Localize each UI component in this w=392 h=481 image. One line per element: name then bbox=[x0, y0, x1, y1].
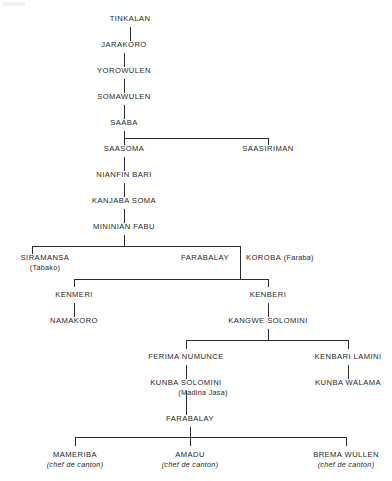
node-saaba[interactable]: SAABA bbox=[110, 118, 138, 128]
connector-kenmeri-riser bbox=[74, 279, 75, 287]
node-koroba[interactable]: KOROBA (Faraba) bbox=[246, 253, 314, 263]
connector-kanjaba-mininian bbox=[124, 209, 125, 223]
connector-amadu-riser bbox=[190, 437, 191, 446]
node-label: SAABA bbox=[110, 118, 138, 127]
node-somawulen[interactable]: SOMAWULEN bbox=[97, 92, 151, 102]
node-label: KANJABA SOMA bbox=[92, 196, 156, 205]
node-label: KANGWE SOLOMINI bbox=[228, 316, 308, 325]
node-label: SAASIRIMAN bbox=[242, 144, 293, 153]
connector-kenmeri-kenberi-bar bbox=[74, 279, 269, 280]
connector-yorowulen-somawulen bbox=[124, 79, 125, 93]
node-label: BREMA WULLEN bbox=[313, 450, 379, 459]
node-label: KENBERI bbox=[250, 290, 287, 299]
node-saasoma[interactable]: SAASOMA bbox=[104, 144, 145, 154]
connector-jarakoro-yorowulen bbox=[124, 53, 125, 67]
node-note: (chef de canton) bbox=[313, 460, 379, 470]
connector-nianfin-kanjaba bbox=[124, 183, 125, 197]
node-kanjaba-soma[interactable]: KANJABA SOMA bbox=[92, 196, 156, 206]
node-nianfin-bari[interactable]: NIANFIN BARI bbox=[96, 170, 152, 180]
node-note: (Tabako) bbox=[21, 263, 70, 273]
connector-kenberi-riser bbox=[268, 279, 269, 287]
node-label: FARABALAY bbox=[181, 253, 229, 262]
node-kunba-solomini[interactable]: KUNBA SOLOMINI (Madina Jasa) bbox=[144, 378, 227, 397]
node-label: NIANFIN BARI bbox=[96, 170, 152, 179]
node-label: KENMERI bbox=[55, 290, 93, 299]
connector-somawulen-saaba bbox=[124, 105, 125, 119]
node-kenmeri[interactable]: KENMERI bbox=[55, 290, 93, 300]
node-kangwe-solomini[interactable]: KANGWE SOLOMINI bbox=[228, 316, 308, 326]
connector-farabalay-koroba-riser bbox=[240, 246, 241, 279]
node-label: NAMAKORO bbox=[50, 316, 98, 325]
connector-saasoma-nianfin bbox=[124, 157, 125, 171]
node-label: MAMERIBA bbox=[53, 450, 97, 459]
node-amadu[interactable]: AMADU (chef de canton) bbox=[162, 450, 219, 469]
node-kenbari-lamini[interactable]: KENBARI LAMINI bbox=[314, 352, 381, 362]
connector-kenbari-riser bbox=[348, 340, 349, 349]
node-label: SAASOMA bbox=[104, 144, 145, 153]
node-label: KENBARI LAMINI bbox=[314, 352, 381, 361]
connector-kenmeri-namakoro bbox=[74, 303, 75, 317]
node-label: TINKALAN bbox=[110, 14, 151, 23]
genealogy-diagram: TINKALAN JARAKORO YOROWULEN SOMAWULEN SA… bbox=[0, 0, 392, 481]
connector-ferima-kenbari-bar bbox=[186, 340, 349, 341]
node-brema-wullen[interactable]: BREMA WULLEN (chef de canton) bbox=[313, 450, 379, 469]
node-label: KUNBA SOLOMINI bbox=[150, 378, 221, 387]
node-note: (Madina Jasa) bbox=[178, 388, 227, 398]
connector-brema-riser bbox=[346, 437, 347, 446]
node-yorowulen[interactable]: YOROWULEN bbox=[97, 66, 151, 76]
node-label: FARABALAY bbox=[166, 414, 214, 423]
connector-ferima-riser bbox=[186, 340, 187, 349]
node-label: MININIAN FABU bbox=[93, 222, 155, 231]
node-kunba-walama[interactable]: KUNBA WALAMA bbox=[315, 378, 381, 388]
node-note: (chef de canton) bbox=[162, 460, 219, 470]
node-namakoro[interactable]: NAMAKORO bbox=[50, 316, 98, 326]
node-mameriba[interactable]: MAMERIBA (chef de canton) bbox=[47, 450, 104, 469]
node-label: SOMAWULEN bbox=[97, 92, 151, 101]
connector-ferima-kunba-solomini bbox=[186, 365, 187, 379]
node-jarakoro[interactable]: JARAKORO bbox=[101, 40, 146, 50]
node-label: SIRAMANSA bbox=[21, 253, 70, 262]
node-label: YOROWULEN bbox=[97, 66, 151, 75]
connector-bottom-sibling-bar bbox=[75, 437, 347, 438]
node-farabalay-lower[interactable]: FARABALAY bbox=[166, 414, 214, 424]
node-note: (Faraba) bbox=[284, 253, 314, 262]
connector-saaba-sibling-bar bbox=[124, 138, 269, 139]
connector-tinkalan-jarakoro bbox=[130, 27, 131, 41]
node-mininian-fabu[interactable]: MININIAN FABU bbox=[93, 222, 155, 232]
node-tinkalan[interactable]: TINKALAN bbox=[110, 14, 151, 24]
node-label: AMADU bbox=[175, 450, 205, 459]
connector-kenbari-kunba-walama bbox=[348, 365, 349, 379]
connector-mininian-sibling-bar bbox=[32, 246, 241, 247]
node-ferima-numunce[interactable]: FERIMA NUMUNCE bbox=[148, 352, 224, 362]
node-label: KUNBA WALAMA bbox=[315, 378, 381, 387]
node-kenberi[interactable]: KENBERI bbox=[250, 290, 287, 300]
node-siramansa[interactable]: SIRAMANSA (Tabako) bbox=[21, 253, 70, 272]
node-label: JARAKORO bbox=[101, 40, 146, 49]
connector-kenberi-kangwe bbox=[268, 303, 269, 317]
node-saasiriman[interactable]: SAASIRIMAN bbox=[242, 144, 293, 154]
node-label: FERIMA NUMUNCE bbox=[148, 352, 224, 361]
page-corner-artifact bbox=[3, 2, 25, 6]
node-farabalay-upper[interactable]: FARABALAY bbox=[181, 253, 229, 263]
connector-mameriba-riser bbox=[75, 437, 76, 446]
node-note: (chef de canton) bbox=[47, 460, 104, 470]
node-label: KOROBA bbox=[246, 253, 281, 262]
